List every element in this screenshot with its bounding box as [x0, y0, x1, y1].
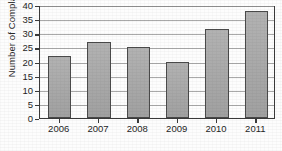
y-axis-tick [35, 105, 39, 106]
y-axis-tick-label: 35 [13, 15, 33, 25]
bar-2007 [87, 42, 111, 118]
y-axis-tick [35, 34, 39, 35]
y-axis-tick-label: 5 [13, 100, 33, 110]
y-axis-tick-label: 30 [13, 29, 33, 39]
x-axis-tick [98, 119, 99, 123]
y-axis-labels: 0510152025303540 [0, 0, 33, 151]
y-axis-tick-label: 15 [13, 72, 33, 82]
x-axis-labels: 200620072008200920102011 [39, 123, 275, 137]
x-axis-tick-label: 2009 [157, 123, 196, 134]
x-axis-tick-label: 2010 [196, 123, 235, 134]
y-axis-tick [35, 63, 39, 64]
x-axis-tick [216, 119, 217, 123]
bar-2011 [245, 11, 269, 118]
x-axis-tick [137, 119, 138, 123]
bar-chart: Number of Complaints 0510152025303540 20… [0, 0, 282, 151]
x-axis-tick [255, 119, 256, 123]
x-axis-tick-label: 2008 [118, 123, 157, 134]
y-axis-tick [35, 48, 39, 49]
y-axis-tick [35, 119, 39, 120]
y-axis-tick [35, 77, 39, 78]
x-axis-tick [177, 119, 178, 123]
x-axis-tick [59, 119, 60, 123]
bar-slot [245, 6, 269, 118]
y-axis-tick [35, 6, 39, 7]
bar-slot [127, 6, 151, 118]
bar-2009 [166, 62, 190, 119]
x-axis-tick-label: 2007 [78, 123, 117, 134]
bar-slot [87, 6, 111, 118]
x-axis-tick-label: 2006 [39, 123, 78, 134]
bar-2008 [127, 47, 151, 118]
bar-slot [205, 6, 229, 118]
bar-2010 [205, 29, 229, 118]
y-axis-tick-label: 20 [13, 58, 33, 68]
x-axis-tick-label: 2011 [236, 123, 275, 134]
y-axis-tick [35, 20, 39, 21]
y-axis-tick-label: 0 [13, 114, 33, 124]
bar-slot [48, 6, 72, 118]
bar-slot [166, 6, 190, 118]
y-axis-tick [35, 91, 39, 92]
y-axis-tick-label: 25 [13, 43, 33, 53]
y-axis-tick-label: 10 [13, 86, 33, 96]
bar-2006 [48, 56, 72, 118]
y-axis-tick-label: 40 [13, 1, 33, 11]
plot-area [39, 6, 275, 119]
bars-group [40, 6, 274, 118]
